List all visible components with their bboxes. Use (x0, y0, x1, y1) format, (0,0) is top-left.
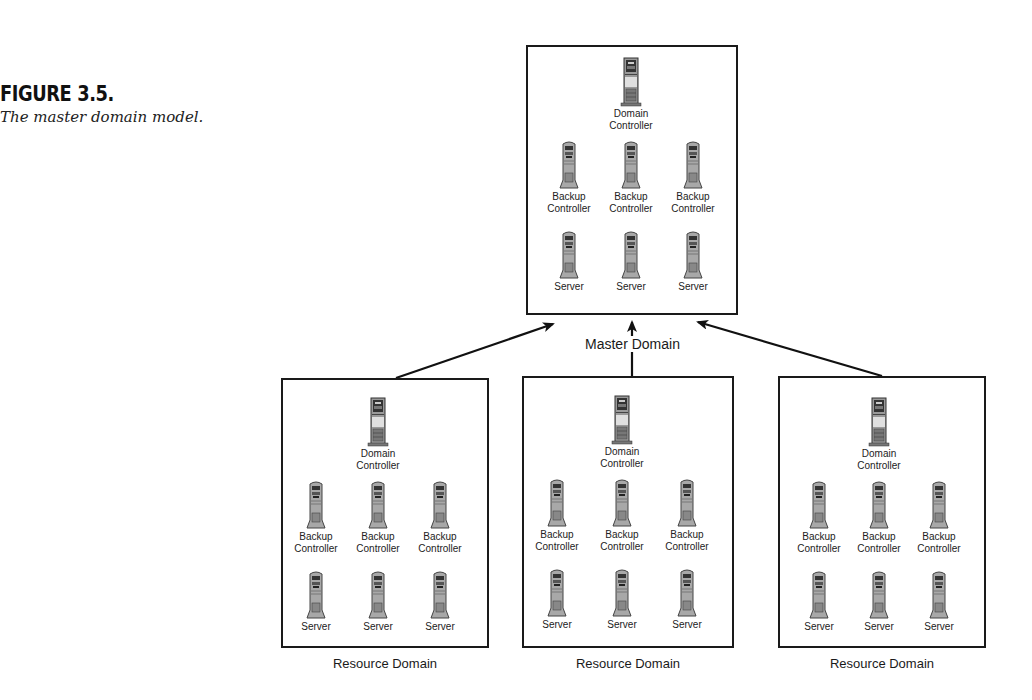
node-label: BackupController (647, 529, 727, 553)
node-label: Server (400, 621, 480, 633)
resource-3-backup-controller-3: BackupController (899, 480, 979, 555)
resource-domain-label-1: Resource Domain (281, 656, 489, 671)
resource-2-server-3: Server (647, 568, 727, 631)
arrow-right-resource-to-master (698, 322, 882, 376)
domain-controller-server-icon (839, 397, 919, 447)
domain-controller-server-icon (582, 395, 662, 445)
resource-domain-label-3: Resource Domain (778, 656, 986, 671)
node-label: Domain Controller (591, 108, 671, 132)
node-label: BackupController (653, 191, 733, 215)
resource-domain-label-2: Resource Domain (522, 656, 734, 671)
domain-controller-server-icon (338, 397, 418, 447)
node-label: Domain Controller (839, 448, 919, 472)
node-label: BackupController (899, 531, 979, 555)
domain-controller-server-icon (591, 57, 671, 107)
server-tower-icon (400, 480, 480, 530)
node-label: Domain Controller (338, 448, 418, 472)
node-label: BackupController (400, 531, 480, 555)
resource-3-domain-controller: Domain Controller (839, 397, 919, 472)
resource-1-backup-controller-3: BackupController (400, 480, 480, 555)
resource-1-server-3: Server (400, 570, 480, 633)
node-label: Server (899, 621, 979, 633)
figure-caption: The master domain model. (0, 108, 203, 126)
server-tower-icon (653, 140, 733, 190)
server-tower-icon (647, 478, 727, 528)
master-backup-controller-3: BackupController (653, 140, 733, 215)
resource-3-server-3: Server (899, 570, 979, 633)
resource-2-backup-controller-3: BackupController (647, 478, 727, 553)
master-domain-controller: Domain Controller (591, 57, 671, 132)
server-tower-icon (400, 570, 480, 620)
resource-2-domain-controller: Domain Controller (582, 395, 662, 470)
resource-1-domain-controller: Domain Controller (338, 397, 418, 472)
master-domain-label: Master Domain (575, 336, 690, 352)
server-tower-icon (899, 480, 979, 530)
server-tower-icon (653, 230, 733, 280)
server-tower-icon (899, 570, 979, 620)
node-label: Domain Controller (582, 446, 662, 470)
node-label: Server (653, 281, 733, 293)
master-server-3: Server (653, 230, 733, 293)
node-label: Server (647, 619, 727, 631)
figure-number: FIGURE 3.5. (0, 82, 114, 106)
arrow-left-resource-to-master (396, 324, 553, 378)
server-tower-icon (647, 568, 727, 618)
